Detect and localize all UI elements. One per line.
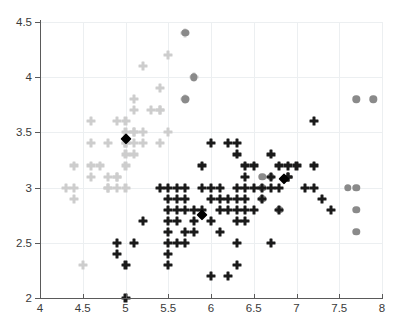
data-point-cluster1 xyxy=(121,161,130,170)
x-tick-mark xyxy=(297,294,298,299)
x-tick-mark xyxy=(254,294,255,299)
data-point-cluster3 xyxy=(164,260,173,269)
data-point-cluster1 xyxy=(130,150,139,159)
data-point-cluster3 xyxy=(232,150,241,159)
gridline-vertical xyxy=(126,22,127,298)
gridline-vertical xyxy=(297,22,298,298)
data-point-cluster1 xyxy=(138,139,147,148)
data-point-cluster3 xyxy=(266,238,275,247)
data-point-cluster2 xyxy=(353,206,360,213)
data-point-cluster3 xyxy=(207,271,216,280)
data-point-cluster1 xyxy=(138,128,147,137)
data-point-cluster1 xyxy=(155,84,164,93)
data-point-cluster1 xyxy=(155,139,164,148)
y-tick-mark xyxy=(35,132,40,133)
data-point-cluster1 xyxy=(104,139,113,148)
y-tick-label: 3 xyxy=(26,182,32,194)
scatter-plot: 22.533.544.5 44.555.566.577.58 xyxy=(0,0,401,328)
data-point-cluster3 xyxy=(258,194,267,203)
data-point-cluster1 xyxy=(164,128,173,137)
x-tick-label: 5.5 xyxy=(160,302,176,314)
gridline-horizontal xyxy=(40,243,382,244)
data-point-cluster3 xyxy=(164,227,173,236)
y-axis-line xyxy=(40,20,41,299)
x-tick-mark xyxy=(211,294,212,299)
data-point-cluster3 xyxy=(292,161,301,170)
data-point-cluster1 xyxy=(121,117,130,126)
x-tick-mark xyxy=(83,294,84,299)
data-point-cluster3 xyxy=(266,150,275,159)
data-point-cluster1 xyxy=(130,95,139,104)
data-point-cluster3 xyxy=(266,172,275,181)
data-point-cluster3 xyxy=(241,194,250,203)
gridline-horizontal xyxy=(40,132,382,133)
data-point-cluster3 xyxy=(232,238,241,247)
gridline-vertical xyxy=(382,22,383,298)
gridline-vertical xyxy=(83,22,84,298)
y-tick-label: 2 xyxy=(26,292,32,304)
data-point-cluster2 xyxy=(353,96,360,103)
data-point-cluster3 xyxy=(318,194,327,203)
data-point-cluster2 xyxy=(353,228,360,235)
gridline-vertical xyxy=(339,22,340,298)
data-point-cluster3 xyxy=(130,238,139,247)
data-point-cluster3 xyxy=(326,205,335,214)
data-point-cluster3 xyxy=(181,238,190,247)
data-point-cluster1 xyxy=(78,260,87,269)
data-point-cluster3 xyxy=(181,194,190,203)
data-point-cluster3 xyxy=(241,172,250,181)
data-point-cluster3 xyxy=(275,205,284,214)
data-point-cluster3 xyxy=(189,227,198,236)
data-point-cluster2 xyxy=(344,184,351,191)
data-point-cluster1 xyxy=(155,106,164,115)
data-point-cluster1 xyxy=(70,161,79,170)
x-tick-label: 8 xyxy=(379,302,385,314)
y-tick-mark xyxy=(35,77,40,78)
data-point-cluster3 xyxy=(309,161,318,170)
data-point-cluster1 xyxy=(70,183,79,192)
x-tick-label: 6 xyxy=(208,302,214,314)
data-point-cluster3 xyxy=(207,139,216,148)
data-point-cluster1 xyxy=(87,117,96,126)
data-point-cluster3 xyxy=(275,183,284,192)
x-tick-mark xyxy=(126,294,127,299)
data-point-cluster1 xyxy=(95,161,104,170)
x-tick-mark xyxy=(168,294,169,299)
data-point-cluster1 xyxy=(112,172,121,181)
data-point-cluster3 xyxy=(164,249,173,258)
data-point-cluster3 xyxy=(138,216,147,225)
data-point-cluster3 xyxy=(232,260,241,269)
data-point-cluster3 xyxy=(309,183,318,192)
y-tick-label: 3.5 xyxy=(16,126,32,138)
y-tick-label: 4.5 xyxy=(16,16,32,28)
data-point-cluster1 xyxy=(70,194,79,203)
data-point-cluster1 xyxy=(130,106,139,115)
data-point-cluster2 xyxy=(259,173,266,180)
x-tick-label: 5 xyxy=(122,302,128,314)
gridline-horizontal xyxy=(40,22,382,23)
data-point-cluster3 xyxy=(189,216,198,225)
y-tick-mark xyxy=(35,188,40,189)
data-point-cluster1 xyxy=(164,51,173,60)
x-tick-label: 6.5 xyxy=(246,302,262,314)
x-tick-label: 7.5 xyxy=(331,302,347,314)
data-point-cluster3 xyxy=(241,216,250,225)
data-point-cluster1 xyxy=(87,139,96,148)
x-tick-mark xyxy=(382,294,383,299)
data-point-cluster3 xyxy=(121,260,130,269)
data-point-cluster3 xyxy=(249,161,258,170)
x-tick-label: 4 xyxy=(37,302,43,314)
data-point-cluster3 xyxy=(215,227,224,236)
data-point-cluster3 xyxy=(207,216,216,225)
y-tick-label: 4 xyxy=(26,71,32,83)
y-tick-label: 2.5 xyxy=(16,237,32,249)
gridline-vertical xyxy=(211,22,212,298)
data-point-cluster3 xyxy=(198,161,207,170)
data-point-cluster3 xyxy=(172,216,181,225)
data-point-cluster3 xyxy=(232,139,241,148)
data-point-cluster3 xyxy=(224,271,233,280)
data-point-cluster1 xyxy=(87,172,96,181)
plot-area xyxy=(40,22,382,298)
data-point-cluster3 xyxy=(215,183,224,192)
data-point-cluster3 xyxy=(112,238,121,247)
